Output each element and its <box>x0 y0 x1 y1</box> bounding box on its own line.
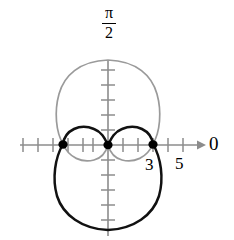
polar-axis-label-theta-zero: 0 <box>209 134 219 153</box>
horizontal-axis-arrowhead <box>197 141 206 150</box>
gray-curve-small-lobe-left <box>63 144 108 161</box>
pi-symbol: π <box>97 5 121 22</box>
marked-point-origin <box>103 141 112 149</box>
marked-point-right <box>148 140 157 148</box>
tick-label-three: 3 <box>145 156 154 173</box>
marked-point-left <box>58 140 67 148</box>
axes-group <box>20 61 206 236</box>
tick-label-five: 5 <box>175 155 184 172</box>
vertical-axis-label-pi-over-two: π 2 <box>97 5 121 42</box>
polar-graph-figure: π 2 3 5 0 <box>0 0 234 240</box>
fraction-denominator: 2 <box>97 25 121 42</box>
